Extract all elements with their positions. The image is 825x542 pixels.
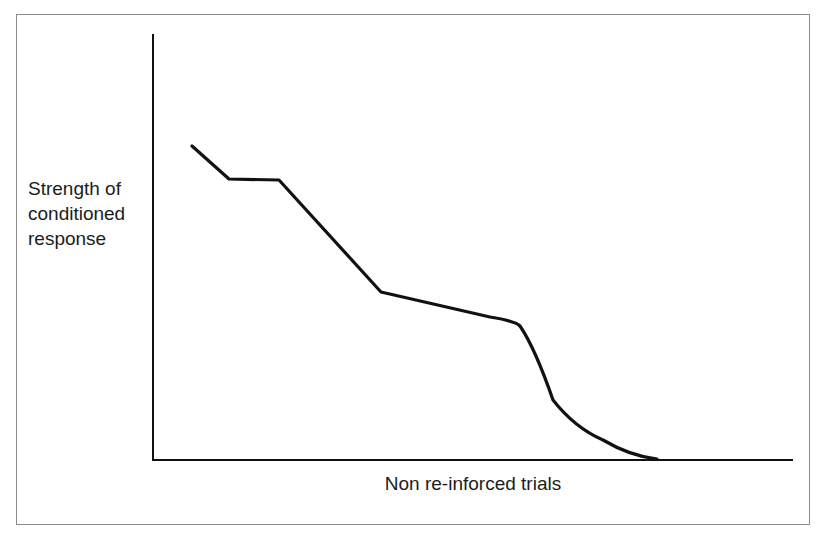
- x-axis-label: Non re-inforced trials: [152, 472, 794, 496]
- y-axis-label: Strength of conditioned response: [28, 176, 146, 251]
- extinction-curve-line: [192, 146, 657, 459]
- plot-surface: [0, 0, 825, 542]
